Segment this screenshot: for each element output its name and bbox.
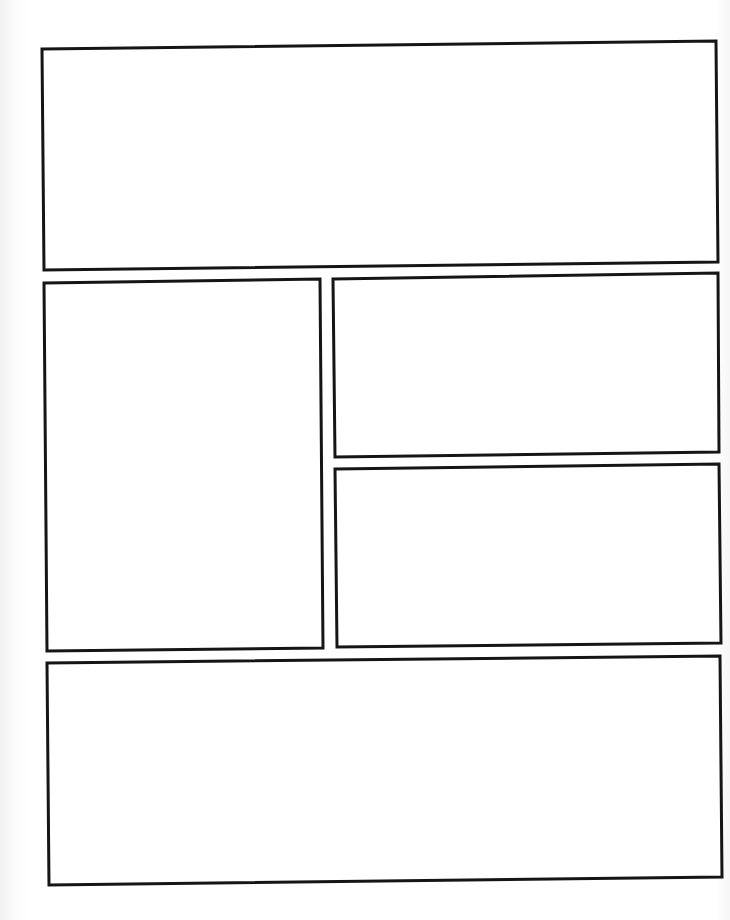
panel-bottom-wide <box>47 656 722 885</box>
panel-middle-left-tall <box>44 279 323 651</box>
panel-middle-right-lower <box>335 464 721 647</box>
panel-middle-right-upper <box>333 273 719 457</box>
panel-top-wide <box>42 41 718 270</box>
panel-layout <box>0 0 730 920</box>
comic-page <box>0 0 730 920</box>
